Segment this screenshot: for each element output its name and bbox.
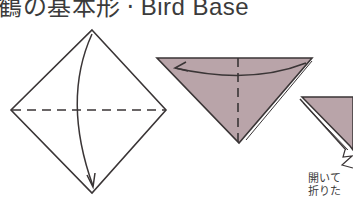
step-1-diamond bbox=[11, 30, 166, 193]
origami-diagram bbox=[0, 0, 353, 207]
squash-arrow-icon bbox=[342, 150, 353, 168]
caption-line-2: 折りた bbox=[308, 185, 341, 198]
caption-line-1: 開いて bbox=[308, 172, 341, 185]
step-2-triangle bbox=[157, 58, 312, 143]
step-3-partial bbox=[300, 97, 353, 168]
step-caption: 開いて 折りた bbox=[308, 172, 341, 198]
